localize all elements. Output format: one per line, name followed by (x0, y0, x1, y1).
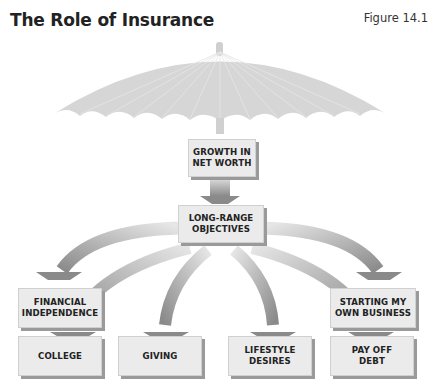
node-label: PAY OFF (352, 345, 392, 356)
node-label: OBJECTIVES (189, 224, 254, 235)
node-long-range-objectives: LONG-RANGEOBJECTIVES (178, 205, 264, 243)
node-label: OWN BUSINESS (335, 308, 411, 319)
node-college: COLLEGE (18, 336, 102, 376)
node-starting-my-own-business: STARTING MYOWN BUSINESS (330, 288, 416, 328)
node-label: STARTING MY (335, 297, 411, 308)
node-label: NET WORTH (193, 158, 252, 169)
diagram-art (0, 0, 440, 391)
arrow-to-starting-business (262, 228, 378, 270)
arrow-to-lifestyle (234, 250, 273, 325)
node-lifestyle-desires: LIFESTYLEDESIRES (228, 336, 312, 376)
node-label: COLLEGE (38, 351, 82, 362)
node-label: GROWTH IN (193, 147, 252, 158)
node-label: LIFESTYLE (245, 345, 296, 356)
arrow-to-giving (165, 250, 208, 325)
node-pay-off-debt: PAY OFFDEBT (330, 336, 414, 376)
node-label: FINANCIAL (22, 297, 98, 308)
umbrella-icon (55, 42, 385, 134)
node-label: INDEPENDENCE (22, 308, 98, 319)
arrow-to-financial-independence (62, 228, 180, 270)
node-financial-independence: FINANCIALINDEPENDENCE (18, 288, 102, 328)
node-label: GIVING (143, 351, 178, 362)
arrow-top-to-middle (200, 176, 240, 204)
node-label: DESIRES (245, 356, 296, 367)
node-giving: GIVING (118, 336, 202, 376)
node-label: LONG-RANGE (189, 213, 254, 224)
node-growth-in-net-worth: GROWTH INNET WORTH (188, 139, 256, 177)
node-label: DEBT (352, 356, 392, 367)
